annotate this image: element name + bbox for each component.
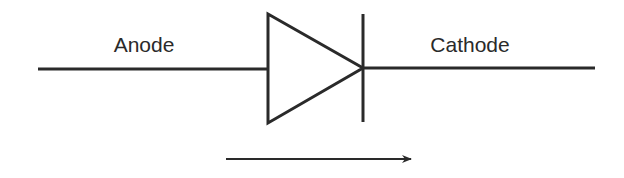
diode-triangle [268, 14, 363, 123]
cathode-label: Cathode [430, 33, 509, 56]
anode-label: Anode [114, 33, 175, 56]
diode-diagram: Anode Cathode [0, 0, 624, 178]
